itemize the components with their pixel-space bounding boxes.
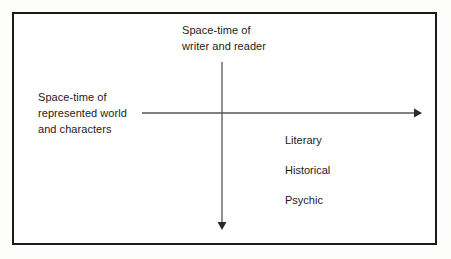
vertical-axis-label: Space-time of writer and reader <box>182 22 266 54</box>
vertical-axis-label-line-2: writer and reader <box>182 38 266 54</box>
term-item: Literary <box>285 133 330 147</box>
horizontal-axis-label-line-3: and characters <box>38 121 127 137</box>
term-item: Psychic <box>285 193 330 207</box>
term-item: Historical <box>285 163 330 177</box>
vertical-axis-label-line-1: Space-time of <box>182 22 266 38</box>
horizontal-axis-label-line-1: Space-time of <box>38 89 127 105</box>
horizontal-axis-label: Space-time of represented world and char… <box>38 89 127 137</box>
term-list: Literary Historical Psychic <box>285 133 330 207</box>
figure-container: Space-time of writer and reader Space-ti… <box>0 0 451 259</box>
horizontal-axis-label-line-2: represented world <box>38 105 127 121</box>
